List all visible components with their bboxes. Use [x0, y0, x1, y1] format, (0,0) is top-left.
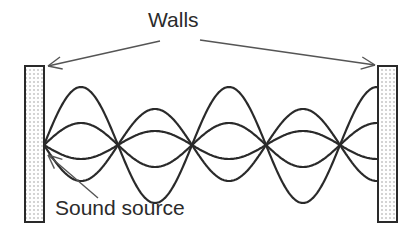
walls-label: Walls [148, 8, 199, 32]
standing-wave-diagram: Walls Sound source [0, 0, 414, 233]
standing-waves [44, 87, 378, 203]
wave-curve [44, 123, 378, 167]
wave-curve [44, 87, 378, 203]
right-wall [378, 66, 397, 222]
left-wall [25, 66, 44, 222]
walls-arrow-left [48, 41, 160, 69]
wave-curve [44, 109, 378, 181]
walls-arrow-right [200, 40, 375, 69]
sound-source-label: Sound source [55, 196, 185, 220]
sound-source-arrow [48, 155, 98, 198]
